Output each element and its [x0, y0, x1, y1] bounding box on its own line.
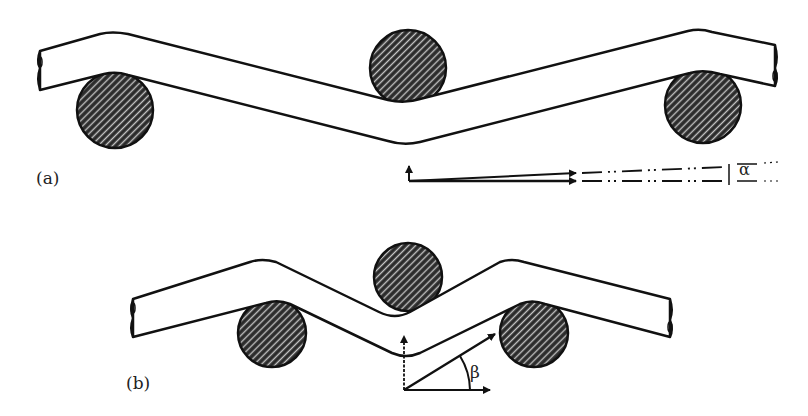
- roller-bending-diagram: [0, 0, 808, 416]
- roller-b-left: [238, 299, 306, 367]
- panel-b: [131, 243, 672, 390]
- panel-a: [38, 30, 778, 185]
- panel-b-label: (b): [126, 373, 150, 393]
- alpha-symbol: α: [739, 160, 750, 179]
- panel-a-label: (a): [36, 168, 59, 188]
- roller-a-left: [77, 72, 153, 148]
- beta-symbol: β: [470, 362, 480, 382]
- angle-alpha-indicator: [409, 162, 778, 185]
- roller-a-right: [665, 67, 741, 143]
